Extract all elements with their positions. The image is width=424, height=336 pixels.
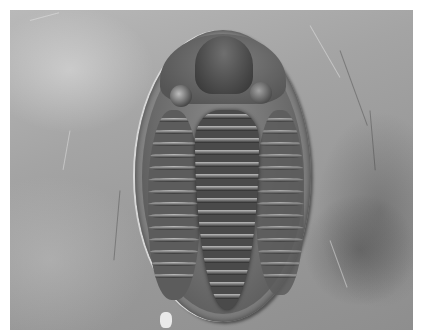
rock-crack — [370, 110, 376, 170]
rock-crack — [340, 50, 368, 126]
left-eye — [170, 85, 192, 107]
fossil-photo — [10, 10, 413, 330]
rock-crack — [310, 25, 341, 77]
right-eye — [250, 82, 272, 104]
rock-crack — [30, 12, 59, 21]
glabella — [195, 36, 253, 94]
white-pebble — [160, 312, 172, 328]
rock-crack — [113, 190, 120, 260]
rock-crack — [330, 240, 348, 287]
right-pleural-lobe — [256, 110, 304, 295]
rock-crack — [63, 130, 71, 170]
left-pleural-lobe — [148, 110, 200, 300]
